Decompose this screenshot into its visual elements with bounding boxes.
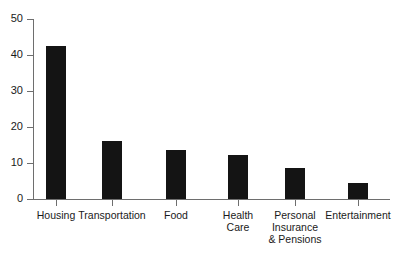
y-axis-tick-label: 0 bbox=[0, 193, 23, 204]
y-axis-tick bbox=[27, 91, 33, 92]
bar bbox=[285, 168, 305, 199]
y-axis-tick-label: 30 bbox=[0, 85, 23, 96]
bar bbox=[102, 141, 122, 199]
y-axis-tick-label: 40 bbox=[0, 49, 23, 60]
x-axis-tick bbox=[56, 200, 57, 206]
y-axis-tick-label: 20 bbox=[0, 121, 23, 132]
category-label-line: Entertainment bbox=[315, 209, 401, 221]
bar-chart: 01020304050 HousingTransportationFoodHea… bbox=[0, 0, 402, 256]
category-label-line: Insurance bbox=[252, 221, 338, 233]
bar bbox=[166, 150, 186, 199]
plot-area: 01020304050 HousingTransportationFoodHea… bbox=[0, 0, 402, 256]
bar bbox=[46, 46, 66, 199]
y-axis-tick bbox=[27, 19, 33, 20]
y-axis-tick bbox=[27, 55, 33, 56]
x-axis-tick bbox=[295, 200, 296, 206]
y-axis-tick bbox=[27, 163, 33, 164]
bar bbox=[348, 183, 368, 199]
x-axis-tick bbox=[358, 200, 359, 206]
x-axis-tick bbox=[176, 200, 177, 206]
category-label-line: & Pensions bbox=[252, 233, 338, 245]
y-axis-tick bbox=[27, 127, 33, 128]
y-axis-tick-label: 50 bbox=[0, 13, 23, 24]
bar bbox=[228, 155, 248, 199]
y-axis-line bbox=[33, 19, 34, 200]
y-axis-tick-label: 10 bbox=[0, 157, 23, 168]
x-axis-line bbox=[33, 199, 390, 200]
y-axis-tick bbox=[27, 199, 33, 200]
x-axis-category-label: Entertainment bbox=[315, 209, 401, 221]
x-axis-tick bbox=[112, 200, 113, 206]
x-axis-tick bbox=[238, 200, 239, 206]
